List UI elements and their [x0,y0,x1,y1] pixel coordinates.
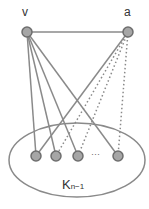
edge-a-k3-dotted [78,32,128,156]
clique-label-main: K [62,177,71,192]
node-k1 [31,151,41,161]
edge-a-k4-dotted [118,32,128,156]
edge-a-k2-dotted [56,32,128,156]
node-k2 [51,151,61,161]
node-v [22,27,32,37]
edges [27,32,128,156]
ellipsis-label: ··· [91,150,100,159]
node-a [123,27,133,37]
edge-v-k4 [27,32,118,156]
clique-label-subscript: n−1 [71,182,85,191]
label-a: a [124,6,131,18]
label-v: v [22,6,28,18]
node-k4 [113,151,123,161]
edge-a-k1 [36,32,128,156]
node-k3 [73,151,83,161]
clique-label: Kn−1 [62,178,84,191]
